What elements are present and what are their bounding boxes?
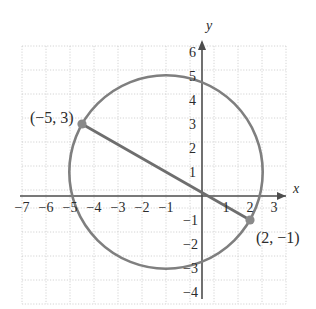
y-tick--1: −1 bbox=[183, 213, 198, 228]
y-tick-6: 6 bbox=[189, 45, 196, 60]
x-tick--2: −2 bbox=[135, 200, 150, 215]
point-b-label: (2, −1) bbox=[256, 229, 300, 247]
y-tick-labels: 6 5 4 3 2 1 −1 −2 −3 −4 bbox=[183, 45, 198, 300]
coordinate-plane-svg: −7 −6 −5 −4 −3 −2 −1 1 2 3 6 5 4 3 2 1 −… bbox=[0, 0, 316, 309]
point-a-marker[interactable] bbox=[77, 119, 86, 128]
axes bbox=[20, 42, 286, 299]
y-axis-label: y bbox=[204, 18, 213, 33]
point-b-marker[interactable] bbox=[245, 215, 254, 224]
graph-figure: −7 −6 −5 −4 −3 −2 −1 1 2 3 6 5 4 3 2 1 −… bbox=[0, 0, 316, 309]
point-a-label: (−5, 3) bbox=[30, 109, 74, 127]
x-axis-label: x bbox=[292, 181, 300, 196]
grid-lines bbox=[22, 46, 286, 304]
y-tick-3: 3 bbox=[189, 117, 196, 132]
y-tick-2: 2 bbox=[189, 141, 196, 156]
x-tick--7: −7 bbox=[15, 200, 30, 215]
x-tick--1: −1 bbox=[159, 200, 174, 215]
y-tick-4: 4 bbox=[189, 93, 196, 108]
y-tick-1: 1 bbox=[189, 165, 196, 180]
y-tick--2: −2 bbox=[183, 237, 198, 252]
x-tick--6: −6 bbox=[39, 200, 54, 215]
x-tick-3: 3 bbox=[271, 200, 278, 215]
x-tick--5: −5 bbox=[63, 200, 78, 215]
x-tick--3: −3 bbox=[111, 200, 126, 215]
x-tick--4: −4 bbox=[87, 200, 102, 215]
y-tick--3: −3 bbox=[183, 261, 198, 276]
y-tick-5: 5 bbox=[189, 69, 196, 84]
x-tick-2: 2 bbox=[247, 200, 254, 215]
x-tick-1: 1 bbox=[223, 200, 230, 215]
y-tick--4: −4 bbox=[183, 285, 198, 300]
x-axis-arrow bbox=[277, 192, 286, 200]
y-axis-arrow bbox=[198, 40, 206, 50]
